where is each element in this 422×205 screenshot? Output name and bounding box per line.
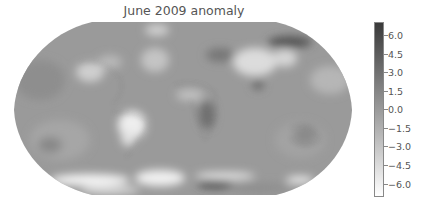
colorbar-tick-label: −3.0 <box>388 141 411 152</box>
colorbar-tick-label: 6.0 <box>388 30 403 41</box>
colorbar-tick-label: −4.5 <box>388 160 411 171</box>
colorbar-tick-label: −6.0 <box>388 179 411 190</box>
colorbar-tick-label: 0.0 <box>388 104 403 115</box>
world-anomaly-map <box>0 0 370 205</box>
colorbar-tick-label: 3.0 <box>388 67 403 78</box>
colorbar-tick-label: 1.5 <box>388 86 403 97</box>
colorbar <box>374 22 384 197</box>
colorbar-tick-label: 4.5 <box>388 49 403 60</box>
colorbar-tick-label: −1.5 <box>388 123 411 134</box>
